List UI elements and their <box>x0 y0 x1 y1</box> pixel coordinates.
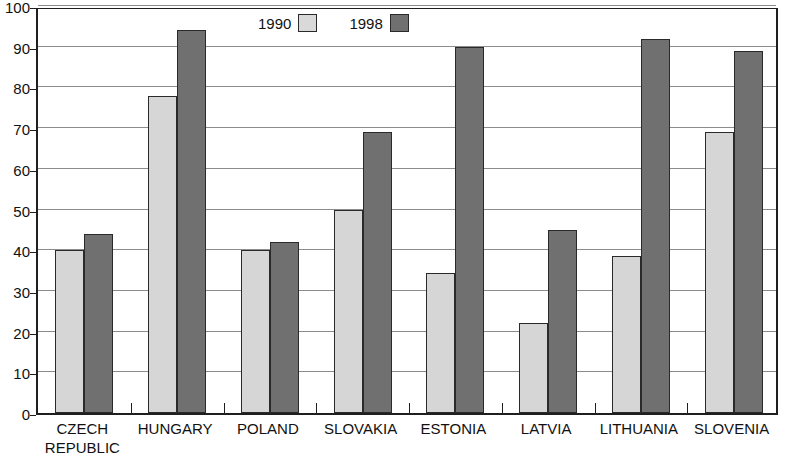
bars-layer <box>38 9 776 413</box>
x-axis-tick-label: CZECH REPUBLIC <box>36 419 129 457</box>
y-axis-tick-label: 90 <box>0 41 30 56</box>
y-axis-tick-mark <box>30 374 36 375</box>
x-axis-tick-label: LITHUANIA <box>593 419 686 438</box>
bar-1998-poland <box>270 242 299 413</box>
legend-label: 1998 <box>349 16 382 31</box>
legend-item-1998: 1998 <box>349 14 408 32</box>
y-axis-tick-label: 70 <box>0 122 30 137</box>
y-axis-tick-mark <box>30 8 36 9</box>
y-axis-tick-label: 40 <box>0 244 30 259</box>
y-axis-tick-mark <box>30 415 36 416</box>
bar-1998-slovenia <box>734 51 763 413</box>
category-separator <box>687 403 688 413</box>
category-separator <box>502 403 503 413</box>
y-axis-tick-mark <box>30 212 36 213</box>
x-axis-tick-label: HUNGARY <box>129 419 222 438</box>
legend-item-1990: 1990 <box>258 14 317 32</box>
legend-swatch <box>298 14 317 32</box>
category-separator <box>131 403 132 413</box>
y-axis-tick-mark <box>30 334 36 335</box>
bar-1998-czech-republic <box>84 234 113 413</box>
plot-area <box>36 8 778 415</box>
y-axis-tick-label: 20 <box>0 326 30 341</box>
bar-1990-lithuania <box>612 256 641 413</box>
bar-1990-slovakia <box>334 210 363 414</box>
bar-1998-estonia <box>455 47 484 413</box>
category-separator <box>224 403 225 413</box>
y-axis-tick-mark <box>30 171 36 172</box>
legend-label: 1990 <box>258 16 291 31</box>
bar-1998-latvia <box>548 230 577 413</box>
y-axis-tick-mark <box>30 89 36 90</box>
bar-1990-czech-republic <box>55 250 84 413</box>
gridline <box>38 5 776 6</box>
x-axis-labels: CZECH REPUBLICHUNGARYPOLANDSLOVAKIAESTON… <box>36 419 778 465</box>
y-axis-tick-label: 60 <box>0 163 30 178</box>
y-axis-tick-label: 0 <box>0 407 30 422</box>
y-axis-tick-mark <box>30 252 36 253</box>
bar-1998-hungary <box>177 30 206 413</box>
bar-1990-latvia <box>519 323 548 413</box>
x-axis-tick-label: LATVIA <box>500 419 593 438</box>
bar-1998-lithuania <box>641 39 670 413</box>
bar-1990-estonia <box>426 273 455 413</box>
bar-1990-poland <box>241 250 270 413</box>
y-axis-tick-mark <box>30 293 36 294</box>
bar-1998-slovakia <box>363 132 392 413</box>
legend-swatch <box>390 14 409 32</box>
y-axis-tick-label: 50 <box>0 204 30 219</box>
x-axis-tick-label: ESTONIA <box>407 419 500 438</box>
chart-legend: 19901998 <box>258 14 409 32</box>
y-axis-tick-label: 30 <box>0 285 30 300</box>
bar-chart: 0102030405060708090100 19901998 CZECH RE… <box>0 0 795 466</box>
y-axis-tick-mark <box>30 49 36 50</box>
y-axis-tick-mark <box>30 130 36 131</box>
y-axis-tick-label: 10 <box>0 366 30 381</box>
y-axis-tick-label: 100 <box>0 0 30 15</box>
y-axis-tick-label: 80 <box>0 81 30 96</box>
bar-1990-slovenia <box>705 132 734 413</box>
x-axis-tick-label: SLOVAKIA <box>314 419 407 438</box>
x-axis-tick-label: SLOVENIA <box>685 419 778 438</box>
category-separator <box>409 403 410 413</box>
x-axis-tick-label: POLAND <box>222 419 315 438</box>
category-separator <box>595 403 596 413</box>
bar-1990-hungary <box>148 96 177 413</box>
category-separator <box>316 403 317 413</box>
